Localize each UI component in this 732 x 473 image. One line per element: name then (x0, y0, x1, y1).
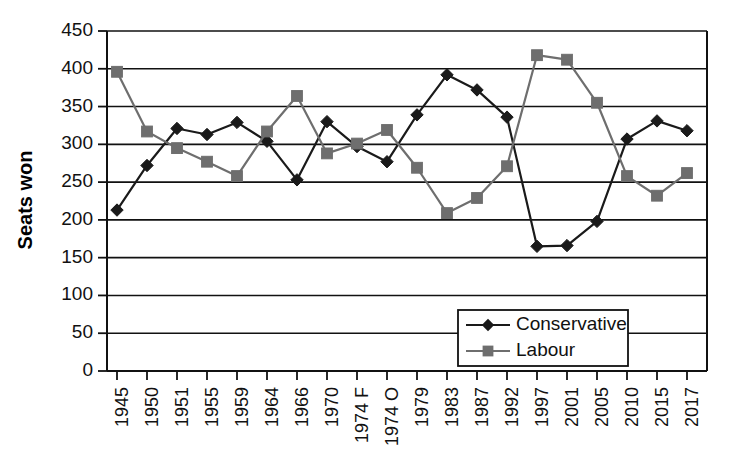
data-point-marker (172, 143, 183, 154)
x-tick-label: 1974 O (382, 387, 402, 446)
y-axis-title: Seats won (14, 151, 36, 250)
x-tick-label: 1951 (172, 387, 192, 427)
data-point-marker (472, 193, 483, 204)
x-tick-label: 2005 (592, 387, 612, 427)
y-axis-title-text: Seats won (14, 151, 36, 250)
data-point-marker (562, 54, 573, 65)
data-point-marker (412, 162, 423, 173)
chart-container: 050100150200250300350400450 194519501951… (0, 0, 732, 473)
y-tick-label: 400 (61, 57, 93, 78)
y-tick-label: 100 (61, 283, 93, 304)
data-point-marker (112, 66, 123, 77)
legend-marker-square (483, 346, 494, 357)
x-tick-label: 1945 (112, 387, 132, 427)
data-point-marker (292, 91, 303, 102)
y-tick-label: 200 (61, 208, 93, 229)
chart-legend: ConservativeLabour (458, 310, 628, 366)
x-tick-label: 1987 (472, 387, 492, 427)
x-tick-label: 2010 (622, 387, 642, 427)
x-tick-label: 1992 (502, 387, 522, 427)
y-tick-label: 350 (61, 95, 93, 116)
x-tick-label: 1997 (532, 387, 552, 427)
data-point-marker (502, 161, 513, 172)
data-point-marker (682, 168, 693, 179)
x-tick-label: 1964 (262, 387, 282, 427)
legend-label: Conservative (516, 313, 627, 334)
data-point-marker (442, 208, 453, 219)
data-point-marker (592, 97, 603, 108)
data-point-marker (322, 148, 333, 159)
x-tick-label: 1955 (202, 387, 222, 427)
seats-won-line-chart: 050100150200250300350400450 194519501951… (0, 0, 732, 473)
data-point-marker (202, 156, 213, 167)
y-tick-label: 250 (61, 170, 93, 191)
y-tick-label: 0 (82, 359, 93, 380)
data-point-marker (532, 50, 543, 61)
y-tick-label: 450 (61, 19, 93, 40)
x-tick-label: 2001 (562, 387, 582, 427)
data-point-marker (622, 171, 633, 182)
y-tick-label: 150 (61, 246, 93, 267)
data-point-marker (382, 125, 393, 136)
x-tick-label: 2017 (682, 387, 702, 427)
x-tick-label: 1966 (292, 387, 312, 427)
x-tick-label: 1970 (322, 387, 342, 427)
x-tick-label: 2015 (652, 387, 672, 427)
x-tick-label: 1979 (412, 387, 432, 427)
y-tick-label: 300 (61, 132, 93, 153)
x-tick-label: 1950 (142, 387, 162, 427)
data-point-marker (652, 190, 663, 201)
data-point-marker (352, 138, 363, 149)
x-tick-label: 1983 (442, 387, 462, 427)
legend-label: Labour (516, 339, 576, 360)
x-tick-label: 1959 (232, 387, 252, 427)
x-tick-label: 1974 F (352, 387, 372, 443)
data-point-marker (232, 171, 243, 182)
data-point-marker (142, 126, 153, 137)
y-tick-label: 50 (72, 321, 93, 342)
data-point-marker (262, 126, 273, 137)
